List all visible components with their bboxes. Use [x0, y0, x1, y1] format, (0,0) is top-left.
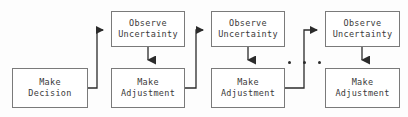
node-make-adjustment-2[interactable]: Make Adjustment: [211, 68, 285, 108]
node-observe-uncertainty-3[interactable]: Observe Uncertainty: [325, 11, 400, 47]
node-make-adjustment-1-label: Make Adjustment: [121, 77, 175, 99]
node-make-decision[interactable]: Make Decision: [12, 68, 88, 108]
ellipsis-dot-1: [288, 61, 291, 64]
node-make-adjustment-2-label: Make Adjustment: [221, 77, 275, 99]
node-observe-uncertainty-2[interactable]: Observe Uncertainty: [211, 11, 285, 47]
node-observe-uncertainty-3-label: Observe Uncertainty: [333, 18, 393, 40]
node-observe-uncertainty-1[interactable]: Observe Uncertainty: [111, 11, 185, 47]
connector-adjustment-2-to-observe-3: [285, 30, 317, 88]
node-make-adjustment-3-label: Make Adjustment: [335, 77, 389, 99]
node-make-adjustment-3[interactable]: Make Adjustment: [325, 68, 400, 108]
node-observe-uncertainty-2-label: Observe Uncertainty: [218, 18, 278, 40]
node-make-adjustment-1[interactable]: Make Adjustment: [111, 68, 185, 108]
ellipsis-dot-2: [303, 61, 306, 64]
connector-adjustment-1-to-observe-2: [185, 30, 203, 88]
flowchart-diagram: Make Decision Observe Uncertainty Make A…: [0, 0, 408, 117]
ellipsis-dot-3: [318, 61, 321, 64]
node-make-decision-label: Make Decision: [28, 77, 71, 99]
node-observe-uncertainty-1-label: Observe Uncertainty: [118, 18, 178, 40]
connector-decision-to-observe-1: [88, 30, 103, 88]
